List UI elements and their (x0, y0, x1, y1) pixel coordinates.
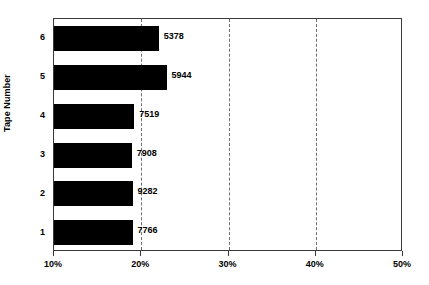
bar-row: 7766 (54, 213, 401, 251)
y-axis-tick-label: 3 (23, 149, 45, 159)
x-axis-tick-label: 10% (33, 259, 73, 270)
x-axis-tick-label: 40% (295, 259, 335, 270)
bar-row: 5944 (54, 58, 401, 97)
y-axis-title: Tape Number (2, 53, 16, 153)
bar-row: 9282 (54, 174, 401, 213)
bar-row: 7908 (54, 136, 401, 175)
bar (54, 181, 133, 206)
y-axis-tick-label: 4 (23, 110, 45, 120)
bar-value-label: 7519 (139, 109, 159, 119)
bar-chart: Tape Number 776692827908751959445378 123… (0, 0, 429, 285)
x-axis-tick-label: 20% (120, 259, 160, 270)
bar (54, 104, 134, 129)
x-axis-tick-label: 30% (208, 259, 248, 270)
bar (54, 26, 159, 51)
x-axis-tick-mark (315, 251, 316, 256)
bar-row: 7519 (54, 97, 401, 136)
bar-value-label: 7908 (137, 148, 157, 158)
bar-row: 5378 (54, 19, 401, 58)
bar-value-label: 5944 (172, 70, 192, 80)
y-axis-tick-label: 2 (23, 188, 45, 198)
bar-value-label: 5378 (164, 31, 184, 41)
y-axis-tick-label: 5 (23, 71, 45, 81)
plot-area: 776692827908751959445378 (53, 18, 402, 251)
x-axis-tick-mark (53, 251, 54, 256)
y-axis-tick-label: 6 (23, 32, 45, 42)
y-axis-tick-label: 1 (23, 227, 45, 237)
bar (54, 65, 167, 90)
x-axis-tick-label: 50% (382, 259, 422, 270)
x-axis-tick-mark (228, 251, 229, 256)
bar-value-label: 7766 (138, 225, 158, 235)
bar-value-label: 9282 (138, 186, 158, 196)
x-axis-tick-mark (140, 251, 141, 256)
bar (54, 220, 133, 245)
bar (54, 143, 132, 168)
x-axis-tick-mark (402, 251, 403, 256)
